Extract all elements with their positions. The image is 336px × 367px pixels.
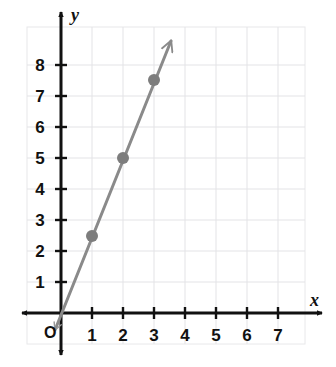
x-tick-label-3: 3 bbox=[145, 327, 163, 344]
x-tick-label-1: 1 bbox=[83, 327, 101, 344]
chart-canvas: 8 7 6 5 4 3 2 1 1 2 3 4 5 6 7 O x y bbox=[0, 0, 336, 367]
data-point bbox=[86, 230, 98, 242]
x-tick-label-6: 6 bbox=[238, 327, 256, 344]
y-tick-label-2: 2 bbox=[31, 243, 49, 260]
data-point bbox=[148, 74, 160, 86]
data-point bbox=[117, 152, 129, 164]
y-tick-label-6: 6 bbox=[31, 119, 49, 136]
y-tick-label-3: 3 bbox=[31, 212, 49, 229]
y-tick-label-5: 5 bbox=[31, 150, 49, 167]
y-tick-label-8: 8 bbox=[31, 57, 49, 74]
x-tick-label-5: 5 bbox=[207, 327, 225, 344]
y-tick-label-7: 7 bbox=[31, 88, 49, 105]
y-axis-label: y bbox=[71, 6, 79, 24]
origin-label: O bbox=[44, 325, 56, 341]
y-tick-label-1: 1 bbox=[31, 274, 49, 291]
x-tick-label-4: 4 bbox=[176, 327, 194, 344]
x-tick-label-2: 2 bbox=[114, 327, 132, 344]
coordinate-plane-graph bbox=[0, 0, 336, 367]
x-axis-label: x bbox=[310, 291, 319, 309]
x-tick-label-7: 7 bbox=[269, 327, 287, 344]
y-tick-label-4: 4 bbox=[31, 181, 49, 198]
